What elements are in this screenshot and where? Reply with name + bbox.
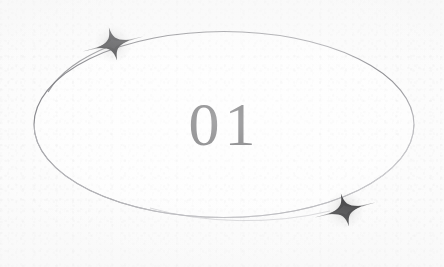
badge-graphic-canvas: 01 <box>0 0 444 267</box>
badge-number-label: 01 <box>0 93 444 155</box>
